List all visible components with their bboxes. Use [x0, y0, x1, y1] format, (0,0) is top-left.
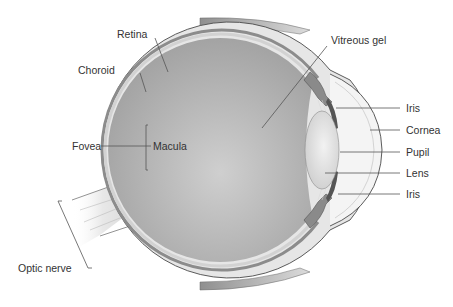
- label-iris-top: Iris: [406, 102, 420, 114]
- eye-diagram: Retina Choroid Fovea Macula Vitreous gel…: [0, 0, 453, 307]
- label-choroid: Choroid: [78, 64, 115, 76]
- label-fovea: Fovea: [72, 140, 101, 152]
- label-retina: Retina: [117, 28, 148, 40]
- label-macula: Macula: [153, 140, 187, 152]
- label-vitreous-gel: Vitreous gel: [331, 34, 386, 46]
- label-cornea: Cornea: [406, 124, 441, 136]
- lens: [305, 111, 339, 189]
- label-pupil: Pupil: [406, 146, 429, 158]
- label-optic-nerve: Optic nerve: [18, 262, 72, 274]
- label-lens: Lens: [406, 167, 429, 179]
- label-iris-bottom: Iris: [406, 188, 420, 200]
